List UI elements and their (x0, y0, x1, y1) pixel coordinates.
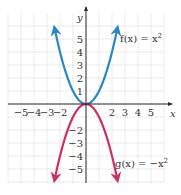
x-tick-label: 5 (148, 107, 154, 118)
x-tick-label: 3 (122, 107, 128, 118)
curve-label-exponent: 2 (158, 32, 162, 40)
y-tick-label: 3 (77, 60, 83, 71)
y-tick-label: 4 (77, 47, 83, 58)
f-curve-label: f(x) = x2 (120, 32, 162, 44)
x-axis-label: x (170, 108, 176, 119)
y-tick-label: −2 (68, 125, 83, 136)
y-tick-label: −3 (68, 138, 83, 149)
y-tick-label: 2 (77, 73, 83, 84)
y-axis-label: y (76, 12, 83, 23)
y-tick-label: 1 (77, 86, 83, 97)
curve-label-text: f(x) = x (120, 33, 158, 44)
curve-label-text: g(x) = −x (115, 158, 164, 169)
y-tick-label: −4 (68, 151, 83, 162)
y-tick-label: −5 (68, 164, 83, 175)
x-tick-label: 2 (109, 107, 115, 118)
x-tick-label: 4 (135, 107, 141, 118)
g-curve-label: g(x) = −x2 (115, 157, 168, 169)
y-tick-label: 5 (77, 34, 83, 45)
curve-label-exponent: 2 (164, 157, 168, 165)
x-tick-label: −2 (53, 107, 68, 118)
function-graph: −5−4−3−2234554321−2−3−4−5 x y f(x) = x2 … (0, 0, 181, 195)
